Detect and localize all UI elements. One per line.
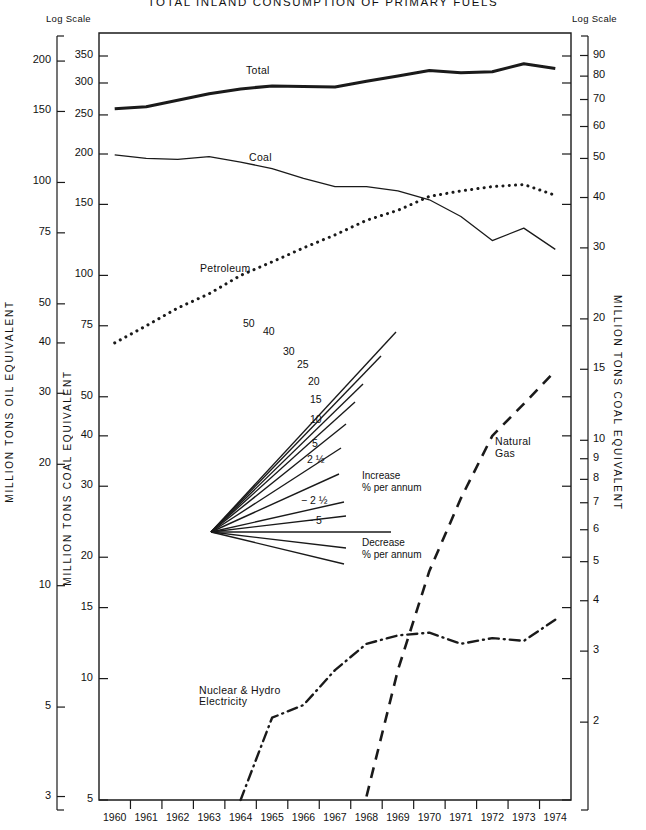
ytick-right-9: 9 bbox=[593, 451, 599, 463]
ytick-inner-left-10: 10 bbox=[81, 671, 93, 683]
fan-ray-label-3: 25 bbox=[297, 358, 309, 370]
series-label-total: Total bbox=[246, 64, 270, 76]
ytick-inner-left-300: 300 bbox=[75, 75, 93, 87]
ytick-outer-left-100: 100 bbox=[33, 174, 51, 186]
series-line-nuclear-hydro-electricity bbox=[241, 620, 556, 800]
ytick-outer-left-20: 20 bbox=[39, 456, 51, 468]
series-label-coal: Coal bbox=[249, 151, 272, 163]
fan-ray-neg2-5 bbox=[211, 532, 346, 548]
series-label-petroleum: Petroleum bbox=[200, 262, 251, 274]
ytick-outer-left-150: 150 bbox=[33, 103, 51, 115]
ytick-outer-left-40: 40 bbox=[39, 335, 51, 347]
ytick-inner-left-100: 100 bbox=[75, 267, 93, 279]
fan-ray-label-2: 30 bbox=[283, 345, 295, 357]
fan-ray-30 bbox=[211, 384, 363, 532]
series-label-nuclear-2: Electricity bbox=[199, 695, 247, 707]
ytick-outer-left-200: 200 bbox=[33, 53, 51, 65]
fan-ray-label-8: 2 ½ bbox=[307, 453, 325, 465]
ytick-right-3: 3 bbox=[593, 643, 599, 655]
fan-legend-increase-2: % per annum bbox=[362, 481, 421, 494]
chart-graphics bbox=[0, 0, 646, 830]
ytick-inner-left-350: 350 bbox=[75, 48, 93, 60]
fan-ray-label-10: − 5 bbox=[307, 514, 322, 526]
series-label-natural-gas-2: Gas bbox=[495, 447, 515, 459]
ytick-right-30: 30 bbox=[593, 240, 605, 252]
ytick-outer-left-50: 50 bbox=[39, 296, 51, 308]
ytick-right-40: 40 bbox=[593, 190, 605, 202]
fan-ray-20 bbox=[211, 424, 346, 532]
fan-ray-40 bbox=[211, 356, 381, 532]
series-label-natural-gas-1: Natural bbox=[495, 435, 531, 447]
ytick-right-10: 10 bbox=[593, 432, 605, 444]
ytick-right-6: 6 bbox=[593, 522, 599, 534]
ytick-inner-left-200: 200 bbox=[75, 146, 93, 158]
xtick-1974: 1974 bbox=[537, 811, 573, 823]
ytick-outer-left-75: 75 bbox=[39, 225, 51, 237]
ytick-inner-left-15: 15 bbox=[81, 600, 93, 612]
ytick-right-50: 50 bbox=[593, 150, 605, 162]
ytick-inner-left-5: 5 bbox=[87, 792, 93, 804]
fan-ray-label-0: 50 bbox=[243, 317, 255, 329]
fan-ray-label-7: 5 bbox=[312, 437, 318, 449]
fan-ray-label-9: − 2 ½ bbox=[301, 494, 328, 506]
ytick-outer-left-3: 3 bbox=[45, 789, 51, 801]
ytick-right-7: 7 bbox=[593, 495, 599, 507]
ytick-inner-left-40: 40 bbox=[81, 428, 93, 440]
ytick-right-2: 2 bbox=[593, 714, 599, 726]
fan-ray-5 bbox=[211, 502, 344, 532]
ytick-right-8: 8 bbox=[593, 471, 599, 483]
fan-legend-decrease-2: % per annum bbox=[362, 548, 421, 561]
fan-ray-label-6: 10 bbox=[310, 413, 322, 425]
ytick-inner-left-75: 75 bbox=[81, 318, 93, 330]
ytick-right-20: 20 bbox=[593, 311, 605, 323]
ytick-outer-left-10: 10 bbox=[39, 578, 51, 590]
series-line-petroleum bbox=[115, 185, 556, 343]
ytick-inner-left-250: 250 bbox=[75, 107, 93, 119]
ytick-right-15: 15 bbox=[593, 361, 605, 373]
ytick-right-4: 4 bbox=[593, 593, 599, 605]
ytick-outer-left-30: 30 bbox=[39, 385, 51, 397]
fan-ray-25 bbox=[211, 402, 355, 532]
fan-ray-neg5 bbox=[211, 532, 344, 564]
fan-ray-label-4: 20 bbox=[308, 375, 320, 387]
ytick-right-60: 60 bbox=[593, 119, 605, 131]
fan-ray-label-5: 15 bbox=[310, 393, 322, 405]
ytick-inner-left-30: 30 bbox=[81, 478, 93, 490]
ytick-right-80: 80 bbox=[593, 68, 605, 80]
ytick-inner-left-150: 150 bbox=[75, 196, 93, 208]
ytick-right-70: 70 bbox=[593, 92, 605, 104]
series-line-total bbox=[115, 64, 556, 109]
ytick-outer-left-5: 5 bbox=[45, 699, 51, 711]
ytick-right-5: 5 bbox=[593, 554, 599, 566]
ytick-right-90: 90 bbox=[593, 48, 605, 60]
fan-ray-label-1: 40 bbox=[263, 325, 275, 337]
chart-canvas: TOTAL INLAND CONSUMPTION OF PRIMARY FUEL… bbox=[0, 0, 646, 830]
ytick-inner-left-20: 20 bbox=[81, 549, 93, 561]
ytick-inner-left-50: 50 bbox=[81, 389, 93, 401]
